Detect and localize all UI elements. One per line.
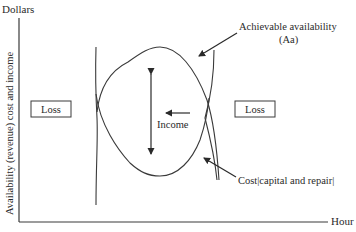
- achievable-availability-label: Achievable availability: [239, 21, 337, 32]
- cost-curve: [96, 94, 209, 176]
- cost-arrow: [204, 158, 236, 177]
- x-axis-label: Hour: [331, 215, 354, 227]
- cost-label: Cost|capital and repair|: [238, 175, 334, 186]
- loss-box-right: Loss: [235, 101, 275, 117]
- loss-right-label: Loss: [245, 104, 265, 115]
- y-axis-label: Availability (revenue) cost and income: [4, 52, 16, 215]
- availability-cost-diagram: Dollars Availability (revenue) cost and …: [0, 0, 356, 232]
- income-label: Income: [157, 119, 189, 130]
- achievable-availability-abbrev: (Aa): [279, 34, 299, 46]
- y-axis-top-label: Dollars: [2, 3, 34, 15]
- achievable-availability-arrow: [199, 33, 237, 56]
- availability-curve: [97, 47, 219, 180]
- loss-left-label: Loss: [41, 104, 61, 115]
- loss-box-left: Loss: [31, 101, 71, 117]
- left-boundary-curve: [96, 47, 98, 205]
